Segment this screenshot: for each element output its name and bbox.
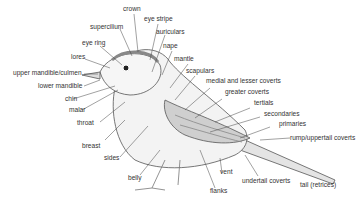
label-rump: rump/uppertail coverts bbox=[290, 135, 355, 142]
label-supercilium: supercilium bbox=[90, 24, 123, 31]
label-vent: vent bbox=[220, 169, 232, 176]
label-primaries: primaries bbox=[279, 121, 306, 128]
label-scapulars: scapulars bbox=[186, 68, 214, 75]
label-tertials: tertials bbox=[254, 100, 273, 107]
label-sides: sides bbox=[104, 155, 119, 162]
label-eye-ring: eye ring bbox=[82, 40, 105, 47]
label-greater-coverts: greater coverts bbox=[225, 89, 269, 96]
label-eye-stripe: eye stripe bbox=[144, 16, 173, 23]
label-tail: tail (retrices) bbox=[300, 182, 336, 189]
label-medial-lesser-coverts: medial and lesser coverts bbox=[206, 78, 281, 85]
label-auriculars: auriculars bbox=[156, 29, 185, 36]
label-breast: breast bbox=[82, 143, 100, 150]
label-malar: malar bbox=[69, 107, 86, 114]
label-crown: crown bbox=[123, 6, 141, 13]
label-flanks: flanks bbox=[210, 188, 227, 195]
label-secondaries: secondaries bbox=[264, 111, 300, 118]
label-mantle: mantle bbox=[174, 56, 194, 63]
label-lores: lores bbox=[71, 54, 85, 61]
label-upper-mandible: upper mandible/culmen bbox=[13, 70, 82, 77]
label-throat: throat bbox=[77, 120, 94, 127]
label-undertail-coverts: undertail coverts bbox=[242, 178, 290, 185]
label-chin: chin bbox=[65, 96, 77, 103]
label-belly: belly bbox=[128, 175, 142, 182]
label-nape: nape bbox=[163, 43, 178, 50]
label-lower-mandible: lower mandible bbox=[38, 83, 82, 90]
